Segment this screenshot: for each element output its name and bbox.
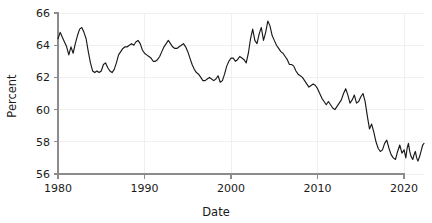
y-tick-label: 56 — [36, 168, 50, 181]
x-axis-title: Date — [202, 205, 230, 219]
chart-svg: 565860626466 19801990200020102020 Percen… — [0, 0, 432, 223]
y-tick-label: 66 — [36, 7, 50, 20]
x-tick-label: 1990 — [131, 182, 159, 195]
x-tick-label: 2000 — [217, 182, 245, 195]
x-tick-label: 1980 — [44, 182, 72, 195]
y-tick-label: 62 — [36, 71, 50, 84]
y-tick-label: 64 — [36, 39, 50, 52]
y-tick-label: 60 — [36, 104, 50, 117]
y-tick-label: 58 — [36, 136, 50, 149]
x-tick-label: 2020 — [390, 182, 418, 195]
y-axis-title: Percent — [5, 74, 19, 118]
line-chart: 565860626466 19801990200020102020 Percen… — [0, 0, 432, 223]
x-tick-label: 2010 — [304, 182, 332, 195]
